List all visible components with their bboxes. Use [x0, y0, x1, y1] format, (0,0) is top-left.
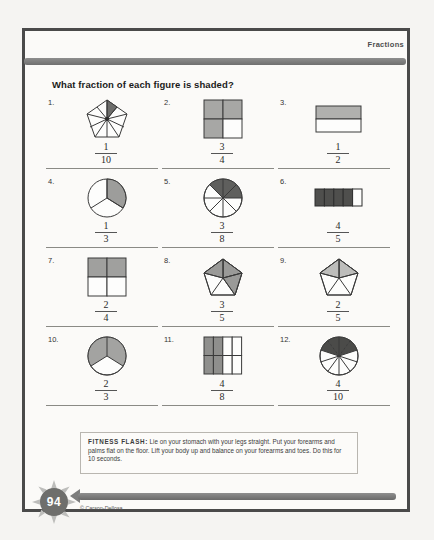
numerator: 3 — [196, 142, 248, 152]
problem-number: 5. — [164, 177, 170, 186]
denominator: 2 — [312, 155, 364, 165]
page-number: 94 — [32, 480, 76, 524]
problem-number: 1. — [48, 98, 54, 107]
answer-rule — [162, 405, 274, 406]
denominator: 4 — [80, 313, 132, 323]
problem-12: 12. — [278, 333, 394, 411]
fraction-answer: 4 8 — [196, 379, 248, 402]
denominator: 8 — [196, 234, 248, 244]
fitness-flash-text: FITNESS FLASH: Lie on your stomach with … — [88, 438, 350, 464]
fraction-answer: 3 8 — [196, 221, 248, 244]
problem-3: 3. 1 2 — [278, 96, 394, 174]
problem-7: 7. 2 4 — [46, 254, 162, 332]
footer-rule-bar — [78, 493, 396, 500]
problem-number: 9. — [280, 256, 286, 265]
problem-number: 4. — [48, 177, 54, 186]
denominator: 5 — [312, 234, 364, 244]
denominator: 10 — [80, 155, 132, 165]
problem-number: 2. — [164, 98, 170, 107]
numerator: 4 — [312, 379, 364, 389]
figure-rectangle-4x2-grid — [188, 333, 258, 379]
numerator: 2 — [312, 300, 364, 310]
problem-number: 6. — [280, 177, 286, 186]
fraction-answer: 3 4 — [196, 142, 248, 165]
problem-6: 6. 4 5 — [278, 175, 394, 253]
worksheet-page: Fractions What fraction of each figure i… — [0, 0, 434, 540]
numerator: 4 — [312, 221, 364, 231]
answer-rule — [46, 168, 158, 169]
header-topic-label: Fractions — [368, 40, 404, 49]
answer-rule — [278, 405, 390, 406]
numerator: 3 — [196, 300, 248, 310]
problem-number: 8. — [164, 256, 170, 265]
fraction-answer: 1 3 — [80, 221, 132, 244]
answer-rule — [162, 326, 274, 327]
denominator: 3 — [80, 392, 132, 402]
figure-square-2x2-grid — [188, 96, 258, 142]
answer-rule — [162, 247, 274, 248]
problem-number: 7. — [48, 256, 54, 265]
problem-number: 3. — [280, 98, 286, 107]
figure-circle-3-sectors — [72, 333, 142, 379]
answer-rule — [278, 247, 390, 248]
answer-rule — [162, 168, 274, 169]
figure-rectangle-2-rows — [304, 96, 374, 142]
problem-4: 4. 1 3 — [46, 175, 162, 253]
fitness-flash-box: FITNESS FLASH: Lie on your stomach with … — [80, 432, 358, 474]
figure-pentagon-5-triangles — [304, 254, 374, 300]
problems-grid: 1. — [46, 96, 394, 406]
problem-11: 11. 4 8 — [162, 333, 278, 411]
numerator: 1 — [312, 142, 364, 152]
fraction-answer: 4 5 — [312, 221, 364, 244]
fraction-answer: 1 10 — [80, 142, 132, 165]
denominator: 4 — [196, 155, 248, 165]
fraction-answer: 1 2 — [312, 142, 364, 165]
numerator: 1 — [80, 142, 132, 152]
figure-square-2x2-grid — [72, 254, 142, 300]
answer-rule — [46, 326, 158, 327]
problem-2: 2. 3 4 — [162, 96, 278, 174]
fraction-answer: 2 5 — [312, 300, 364, 323]
numerator: 1 — [80, 221, 132, 231]
denominator: 5 — [196, 313, 248, 323]
answer-rule — [278, 168, 390, 169]
copyright-text: © Carson-Dellosa — [80, 505, 123, 511]
problem-10: 10. 2 3 — [46, 333, 162, 411]
problem-number: 12. — [280, 335, 290, 344]
fraction-answer: 2 4 — [80, 300, 132, 323]
figure-pentagon-10-wedges — [72, 96, 142, 142]
numerator: 4 — [196, 379, 248, 389]
figure-circle-8-sectors — [188, 175, 258, 221]
answer-rule — [46, 405, 158, 406]
fitness-flash-label: FITNESS FLASH: — [88, 438, 148, 445]
fraction-answer: 2 3 — [80, 379, 132, 402]
header-rule-bar — [24, 58, 406, 65]
numerator: 2 — [80, 379, 132, 389]
problem-1: 1. — [46, 96, 162, 174]
denominator: 10 — [312, 392, 364, 402]
numerator: 2 — [80, 300, 132, 310]
fraction-answer: 4 10 — [312, 379, 364, 402]
figure-pentagon-5-triangles — [188, 254, 258, 300]
figure-circle-10-sectors — [304, 333, 374, 379]
figure-circle-3-sectors — [72, 175, 142, 221]
problem-5: 5. 3 8 — [162, 175, 278, 253]
answer-rule — [278, 326, 390, 327]
denominator: 5 — [312, 313, 364, 323]
problem-number: 10. — [48, 335, 58, 344]
problem-8: 8. 3 — [162, 254, 278, 332]
numerator: 3 — [196, 221, 248, 231]
problem-9: 9. 2 — [278, 254, 394, 332]
problem-number: 11. — [164, 335, 174, 344]
page-title: What fraction of each figure is shaded? — [52, 79, 234, 90]
denominator: 8 — [196, 392, 248, 402]
figure-rectangle-5-columns — [304, 175, 374, 221]
answer-rule — [46, 247, 158, 248]
denominator: 3 — [80, 234, 132, 244]
fraction-answer: 3 5 — [196, 300, 248, 323]
